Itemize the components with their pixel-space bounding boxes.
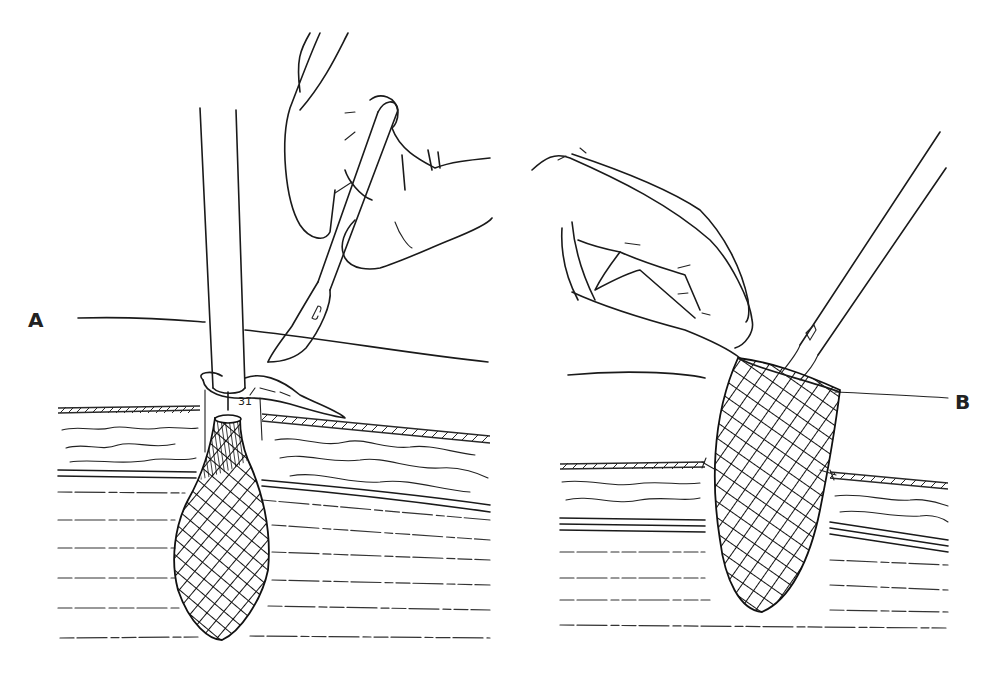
mesh-plug-icon (174, 415, 269, 640)
hand-icon (285, 33, 492, 269)
scalpel-icon (268, 102, 398, 362)
introducer-tube-icon (200, 108, 245, 410)
flap-marking: 31 (238, 395, 252, 408)
mesh-plug-icon (702, 358, 840, 612)
panel-label-a: A (28, 308, 43, 332)
skin-surface-line (568, 372, 705, 378)
panel-label-b: B (955, 390, 970, 414)
panel-a-illustration: 31 (0, 0, 500, 677)
forceps-icon (782, 132, 946, 380)
panel-b: B (500, 0, 995, 677)
panel-a: 31 (0, 0, 500, 677)
skin-surface-line (78, 318, 488, 362)
tissue-layers-icon (58, 406, 490, 638)
panel-b-illustration (500, 0, 995, 677)
hand-icon (532, 148, 753, 358)
